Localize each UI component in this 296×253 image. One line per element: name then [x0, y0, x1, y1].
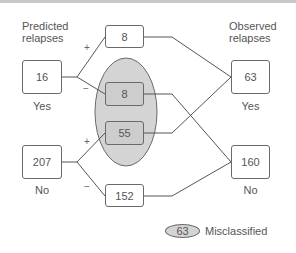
legend-value: 63: [176, 225, 188, 237]
predicted-yes-box: 16: [22, 60, 62, 94]
sign-no-minus: −: [84, 181, 90, 192]
link-to-obs-yes-1: [144, 37, 231, 77]
middle-yes-minus-box: 8: [105, 82, 144, 106]
predicted-header-line1: Predicted: [22, 20, 68, 32]
link-to-obs-no-2: [144, 162, 231, 196]
link-pred-no-minus: [77, 162, 105, 196]
middle-no-plus-box: 55: [105, 121, 144, 145]
middle-no-plus-value: 55: [118, 127, 130, 139]
observed-yes-box: 63: [231, 60, 270, 94]
observed-header: Observed relapses: [229, 20, 277, 44]
predicted-yes-value: 16: [36, 71, 48, 83]
middle-yes-minus-value: 8: [121, 88, 127, 100]
sign-no-plus: +: [84, 136, 90, 147]
middle-no-minus-box: 152: [105, 184, 144, 207]
observed-no-box: 160: [231, 145, 270, 179]
middle-yes-plus-value: 8: [121, 31, 127, 43]
observed-header-line1: Observed: [229, 20, 277, 32]
sign-yes-minus: −: [83, 83, 89, 94]
predicted-no-value: 207: [33, 156, 51, 168]
predicted-header-line2: relapses: [22, 32, 68, 44]
observed-yes-label: Yes: [231, 100, 270, 112]
predicted-no-box: 207: [22, 145, 62, 179]
middle-yes-plus-box: 8: [105, 25, 144, 48]
predicted-no-label: No: [22, 184, 62, 196]
sign-yes-plus: +: [84, 42, 90, 53]
observed-no-value: 160: [241, 156, 259, 168]
observed-yes-value: 63: [244, 71, 256, 83]
observed-no-label: No: [231, 184, 270, 196]
observed-header-line2: relapses: [229, 32, 277, 44]
predicted-header: Predicted relapses: [22, 20, 68, 44]
legend-label: Misclassified: [205, 225, 267, 237]
middle-no-minus-value: 152: [115, 190, 133, 202]
legend-misclassified-ellipse: 63: [165, 224, 200, 238]
predicted-yes-label: Yes: [22, 100, 62, 112]
misclassified-ellipse: [95, 58, 157, 166]
